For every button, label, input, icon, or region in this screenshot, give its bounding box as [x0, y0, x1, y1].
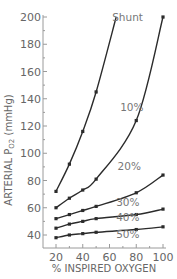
series-line-50pct	[56, 227, 163, 238]
y-tick-label: 100	[20, 147, 41, 160]
series-lines	[54, 15, 164, 239]
data-point-marker	[81, 188, 84, 191]
data-point-marker	[161, 225, 164, 228]
data-point-marker	[54, 217, 57, 220]
series-label-40pct: 40%	[116, 211, 139, 223]
axes: 40608010012014016018020020406080100	[20, 11, 174, 264]
y-tick-label: 180	[20, 38, 41, 51]
y-tick-label: 40	[27, 229, 41, 242]
y-tick-label: 60	[27, 202, 41, 215]
data-point-marker	[54, 236, 57, 239]
data-point-marker	[95, 90, 98, 93]
data-point-marker	[81, 232, 84, 235]
series-label-10pct: 10%	[120, 101, 143, 113]
series-labels: Shunt10%20%30%40%50%	[112, 11, 143, 240]
series-line-40pct	[56, 209, 163, 228]
y-tick-label: 140	[20, 93, 41, 106]
y-tick-label: 200	[20, 11, 41, 24]
y-tick-label: 160	[20, 66, 41, 79]
x-axis-title: % INSPIRED OXYGEN	[52, 263, 156, 274]
data-point-marker	[81, 209, 84, 212]
data-point-marker	[161, 208, 164, 211]
data-point-marker	[68, 163, 71, 166]
data-point-marker	[161, 173, 164, 176]
data-point-marker	[161, 15, 164, 18]
series-line-20pct	[56, 17, 163, 208]
y-tick-label: 80	[27, 175, 41, 188]
series-label-shunt: Shunt	[112, 11, 143, 23]
shunt-pao2-chart: 40608010012014016018020020406080100 Shun…	[0, 0, 177, 279]
data-point-marker	[68, 213, 71, 216]
series-label-30pct: 30%	[116, 196, 139, 208]
data-point-marker	[95, 231, 98, 234]
data-point-marker	[81, 130, 84, 133]
series-label-20pct: 20%	[118, 160, 141, 172]
data-point-marker	[95, 178, 98, 181]
y-tick-label: 120	[20, 120, 41, 133]
data-point-marker	[95, 205, 98, 208]
data-point-marker	[68, 233, 71, 236]
data-point-marker	[68, 223, 71, 226]
data-point-marker	[81, 220, 84, 223]
data-point-marker	[95, 217, 98, 220]
data-point-marker	[54, 206, 57, 209]
data-point-marker	[54, 190, 57, 193]
data-point-marker	[54, 227, 57, 230]
y-axis-title: ARTERIAL PO2 (mmHg)	[3, 94, 16, 205]
data-point-marker	[135, 119, 138, 122]
data-point-marker	[135, 191, 138, 194]
data-point-marker	[68, 197, 71, 200]
series-label-50pct: 50%	[116, 228, 139, 240]
